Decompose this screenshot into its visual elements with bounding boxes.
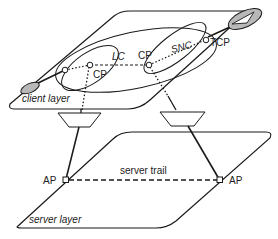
solid-drop-right: [168, 96, 176, 110]
cp-right-label: CP: [138, 50, 152, 61]
server-trail-label: server trail: [120, 165, 167, 176]
client-layer-label: client layer: [22, 93, 70, 104]
connection-point-cp-right: [146, 62, 152, 68]
lc-label: LC: [112, 51, 126, 62]
client-trail-left-line: [36, 70, 65, 84]
connection-point-left-end: [62, 67, 68, 73]
tcp-label: TCP: [210, 37, 230, 48]
diagram-canvas: CP CP TCP LC SNC client layer AP AP serv…: [0, 0, 278, 239]
adaptation-function-right: [160, 112, 205, 126]
access-point-left: [63, 177, 69, 183]
adaptation-function-left: [58, 113, 101, 127]
adapt-right-to-ap: [188, 126, 219, 179]
ap-left-label: AP: [43, 175, 57, 186]
cp-left-label: CP: [93, 69, 107, 80]
connection-point-cp-left: [87, 62, 93, 68]
ap-right-label: AP: [229, 175, 243, 186]
connection-point-tcp: [203, 37, 209, 43]
server-layer-label: server layer: [29, 214, 82, 225]
access-point-right: [217, 177, 223, 183]
client-trail-right-line: [208, 27, 230, 37]
